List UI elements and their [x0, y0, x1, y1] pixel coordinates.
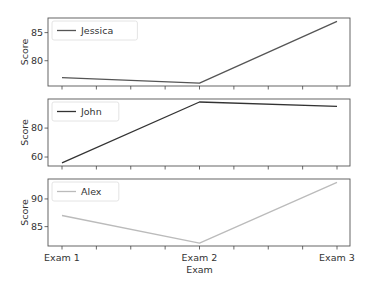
x-axis-label: Exam — [186, 264, 213, 275]
legend-label-jessica: Jessica — [80, 25, 113, 36]
y-tick-label: 80 — [31, 55, 43, 66]
x-tick-label: Exam 2 — [182, 252, 218, 263]
y-tick-label: 85 — [31, 27, 43, 38]
y-axis-label: Score — [19, 119, 30, 146]
y-tick-label: 60 — [31, 151, 43, 162]
legend-label-alex: Alex — [81, 186, 102, 197]
chart-figure: 8085ScoreJessica6080ScoreJohn8590ScoreAl… — [0, 0, 371, 285]
y-tick-label: 80 — [31, 122, 43, 133]
chart-canvas: 8085ScoreJessica6080ScoreJohn8590ScoreAl… — [0, 0, 371, 285]
legend-label-john: John — [80, 106, 102, 117]
y-axis-label: Score — [19, 39, 30, 66]
y-tick-label: 90 — [31, 193, 43, 204]
x-tick-label: Exam 1 — [44, 252, 80, 263]
y-axis-label: Score — [19, 199, 30, 226]
y-tick-label: 85 — [31, 221, 43, 232]
x-tick-label: Exam 3 — [319, 252, 355, 263]
